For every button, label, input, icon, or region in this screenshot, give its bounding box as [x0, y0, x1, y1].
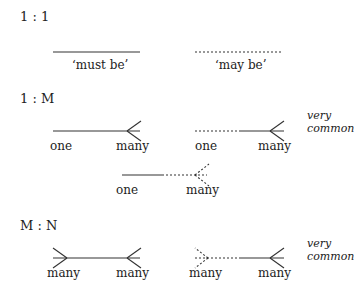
label-one: one: [50, 139, 72, 153]
heading-many-to-many: M : N: [20, 218, 57, 233]
label-one: one: [116, 183, 138, 197]
may-be-label: ‘may be’: [215, 58, 267, 72]
label-many: many: [189, 266, 222, 280]
heading-one-to-many: 1 : M: [20, 91, 54, 106]
label-many: many: [186, 183, 219, 197]
label-many: many: [116, 139, 149, 153]
note-very-common: very common: [307, 109, 354, 135]
label-many: many: [258, 266, 291, 280]
label-many: many: [116, 266, 149, 280]
note-very-common: very common: [307, 237, 354, 263]
label-many: many: [258, 139, 291, 153]
label-many: many: [47, 266, 80, 280]
heading-one-to-one: 1 : 1: [20, 9, 49, 24]
label-one: one: [195, 139, 217, 153]
must-be-label: ‘must be’: [72, 58, 128, 72]
